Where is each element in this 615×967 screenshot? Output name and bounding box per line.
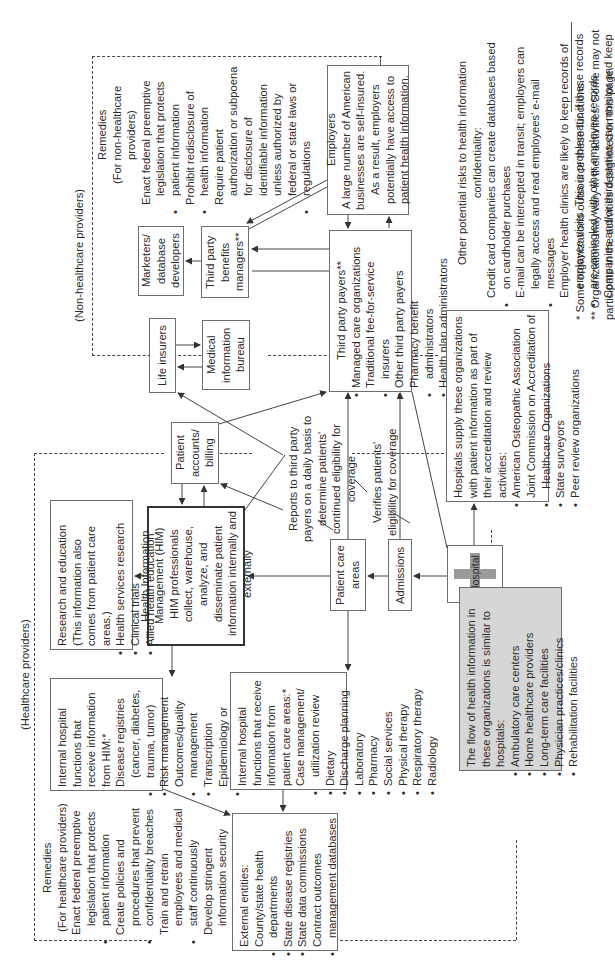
- employers-box: Employers A large number of American bus…: [327, 65, 409, 215]
- him-box: Health Information Management (HIM) HIM …: [147, 506, 245, 646]
- verifies-annotation: Verifies patients' eligibility for cover…: [365, 425, 405, 540]
- other-risks: Other potential risks to health informat…: [455, 28, 580, 298]
- similar-orgs-box: The flow of health information in these …: [459, 587, 562, 771]
- remedy-item: Enact federal preemptive legislation tha…: [139, 65, 183, 205]
- footnote-rule: [571, 22, 572, 112]
- footnotes: * Some organizations outsource these fun…: [573, 20, 615, 320]
- remedy-item: Require patient authorization or subpoen…: [212, 65, 314, 205]
- hc-region-label: (Healthcare providers): [16, 590, 34, 760]
- patient-care-areas-box: Patient care areas: [330, 539, 366, 611]
- remedy-item: Prohibit redisclosure of health informat…: [183, 65, 212, 205]
- third-party-payers-box: Third party payers** Managed care organi…: [329, 230, 412, 392]
- life-insurers-box: Life insurers: [149, 318, 176, 393]
- hc-region-bottom-2: [340, 940, 516, 941]
- research-box: Research and education (This information…: [50, 500, 133, 650]
- hc-region-left: [34, 453, 35, 941]
- admissions-box: Admissions: [388, 539, 412, 611]
- hc-region-bottom: [34, 940, 152, 941]
- nonhc-region-top: [92, 56, 382, 57]
- hc-region-top: [34, 453, 164, 454]
- remedies-nonhealthcare: Remedies (For non-healthcare providers) …: [95, 65, 250, 205]
- reports-annotation: Reports to third party payers on a daily…: [283, 410, 361, 548]
- third-party-benefits-box: Third party benefits managers**: [201, 226, 249, 298]
- external-entities-box: External entities: County/state health d…: [232, 813, 338, 951]
- remedies-healthcare: Remedies (For healthcare providers) Enac…: [40, 800, 200, 935]
- patient-accounts-box: Patient accounts/ billing: [171, 422, 219, 484]
- mib-box: Medical information bureau: [202, 320, 250, 390]
- internal-pca-box: Internal hospital functions that receive…: [230, 672, 347, 790]
- nonhc-region-left: [92, 56, 93, 356]
- internal-him-box: Internal hospital functions that receive…: [50, 678, 163, 791]
- marketers-box: Marketers/ database developers: [138, 226, 184, 296]
- nonhc-region-label: (Non-healthcare providers): [70, 170, 88, 340]
- accreditation-box: Hospitals supply these organizations wit…: [446, 310, 549, 502]
- hc-region-right: [516, 840, 517, 940]
